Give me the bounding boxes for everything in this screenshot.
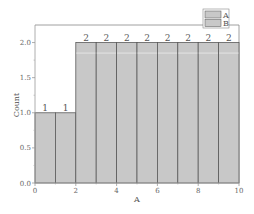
y-axis-title: Count: [12, 92, 21, 117]
histogram-bar: [76, 43, 96, 183]
bar-value-label: 2: [124, 33, 130, 43]
x-tick-label: 0: [33, 187, 37, 195]
y-tick-label: 0.5: [20, 144, 31, 152]
x-tick-label: 6: [155, 187, 160, 195]
y-tick-label: 0.0: [20, 180, 31, 188]
y-tick-label: 1.5: [20, 74, 31, 82]
histogram-bar: [55, 113, 75, 183]
bar-value-label: 2: [206, 33, 212, 43]
legend-label-b: B: [223, 19, 229, 28]
x-tick-label: 4: [114, 187, 119, 195]
x-tick-label: 8: [196, 187, 200, 195]
legend: A B: [203, 9, 229, 28]
histogram-chart: 1122222222 0.00.51.01.52.00246810 Count …: [0, 0, 254, 214]
histogram-bar: [219, 43, 239, 183]
bar-value-label: 2: [165, 33, 171, 43]
bar-value-label: 1: [63, 103, 69, 113]
x-tick-label: 2: [74, 187, 78, 195]
histogram-bar: [157, 43, 177, 183]
histogram-bar: [178, 43, 198, 183]
bar-value-label: 2: [144, 33, 150, 43]
bar-value-label: 2: [104, 33, 110, 43]
y-tick-label: 2.0: [20, 39, 31, 47]
y-tick-label: 1.0: [20, 109, 31, 117]
histogram-bar: [137, 43, 157, 183]
histogram-bar: [96, 43, 116, 183]
bar-value-label: 2: [226, 33, 232, 43]
bar-value-label: 1: [42, 103, 48, 113]
legend-swatch-a: [205, 11, 221, 18]
histogram-bar: [117, 43, 137, 183]
x-axis-title: A: [133, 195, 140, 204]
histogram-bar: [35, 113, 55, 183]
x-tick-label: 10: [235, 187, 244, 195]
histogram-bar: [198, 43, 218, 183]
legend-swatch-b: [205, 20, 221, 27]
bar-value-label: 2: [83, 33, 89, 43]
bar-value-label: 2: [185, 33, 191, 43]
